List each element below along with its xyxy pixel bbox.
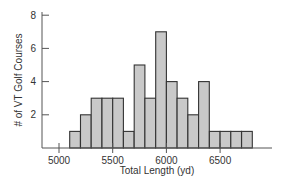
histogram-bar [145,98,156,148]
histogram-bar [209,131,220,148]
histogram-bar [91,98,102,148]
histogram-bar [123,131,134,148]
y-axis-ticks: 2468 [30,10,49,121]
histogram-bar [188,115,199,148]
histogram-bar [134,65,145,148]
x-tick-label: 5000 [48,155,71,166]
y-axis-title: # of VT Golf Courses [13,33,24,126]
histogram-bars [70,32,253,148]
y-tick-label: 6 [30,43,36,54]
histogram-bar [102,98,113,148]
histogram-bar [166,82,177,148]
y-tick-label: 4 [30,76,36,87]
histogram-bar [242,131,253,148]
histogram-bar [220,131,231,148]
histogram-bar [81,115,92,148]
x-tick-label: 6500 [209,155,232,166]
y-tick-label: 2 [30,109,36,120]
x-axis-title: Total Length (yd) [120,165,195,176]
y-tick-label: 8 [30,10,36,21]
histogram-bar [199,82,210,148]
histogram-bar [231,131,242,148]
histogram-bar [70,131,81,148]
histogram-bar [177,98,188,148]
histogram-bar [113,98,124,148]
histogram-bar [156,32,167,148]
histogram-chart: 2468 5000550060006500 Total Length (yd) … [0,0,288,188]
